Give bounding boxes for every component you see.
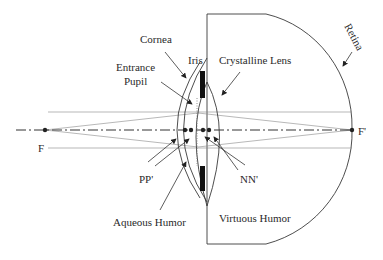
label-cornea: Cornea — [140, 33, 172, 45]
label-focal-back: F' — [358, 125, 366, 137]
labels: Cornea Iris Crystalline Lens Entrance Pu… — [38, 21, 366, 228]
label-retina: Retina — [342, 21, 366, 52]
focal-point-front — [43, 128, 47, 132]
crystalline-lens — [196, 82, 220, 206]
nodal-point-n — [201, 128, 205, 132]
focal-point-back — [350, 128, 354, 132]
label-arrows — [148, 52, 352, 210]
principal-point-p-prime — [189, 128, 193, 132]
label-vitreous-humor: Virtuous Humor — [219, 212, 291, 224]
label-iris: Iris — [188, 54, 203, 66]
label-crystalline-lens: Crystalline Lens — [219, 54, 291, 66]
eyeball-outline — [207, 14, 352, 244]
label-entrance-pupil-line2: Pupil — [124, 75, 147, 87]
label-entrance-pupil-line1: Entrance — [116, 61, 155, 73]
label-principal-points: PP' — [139, 173, 153, 185]
label-aqueous-humor: Aqueous Humor — [113, 216, 186, 228]
principal-point-p — [183, 128, 187, 132]
eye-optics-diagram: Cornea Iris Crystalline Lens Entrance Pu… — [0, 0, 383, 260]
label-nodal-points: NN' — [240, 173, 258, 185]
nodal-point-n-prime — [207, 128, 211, 132]
label-focal-front: F — [38, 142, 44, 154]
